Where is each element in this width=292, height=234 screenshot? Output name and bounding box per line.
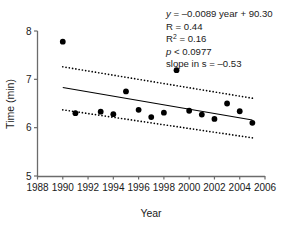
data-point bbox=[123, 89, 129, 95]
upper-confidence-band-dot bbox=[144, 79, 146, 81]
upper-confidence-band-dot bbox=[131, 77, 133, 79]
upper-confidence-band-dot bbox=[199, 89, 201, 91]
lower-confidence-band-dot bbox=[167, 124, 169, 126]
upper-confidence-band-dot bbox=[167, 83, 169, 85]
x-tick-label: 1996 bbox=[127, 182, 150, 193]
lower-confidence-band-dot bbox=[108, 116, 110, 118]
data-point bbox=[73, 110, 79, 116]
upper-confidence-band-dot bbox=[88, 70, 90, 72]
upper-confidence-band-dot bbox=[170, 84, 172, 86]
data-point bbox=[98, 109, 104, 115]
annotation-p-value: p < 0.0977 bbox=[165, 46, 212, 57]
scatter-chart: 5678 19881990199219941996199820002002200… bbox=[0, 0, 292, 234]
data-point bbox=[136, 107, 142, 113]
upper-confidence-band-dot bbox=[232, 94, 234, 96]
upper-confidence-band-dot bbox=[202, 89, 204, 91]
annotation-equation: y = –0.0089 year + 90.30 bbox=[165, 8, 273, 19]
upper-confidence-band-dot bbox=[104, 73, 106, 75]
upper-confidence-band-dot bbox=[163, 83, 165, 85]
lower-confidence-band-dot bbox=[91, 113, 93, 115]
lower-confidence-band-dot bbox=[189, 128, 191, 130]
upper-confidence-band-dot bbox=[248, 97, 250, 99]
upper-confidence-band-dot bbox=[242, 96, 244, 98]
upper-confidence-band-dot bbox=[91, 71, 93, 73]
lower-confidence-band-dot bbox=[85, 112, 87, 114]
lower-confidence-band-dot bbox=[131, 119, 133, 121]
upper-confidence-band-dot bbox=[212, 91, 214, 93]
upper-confidence-band-dot bbox=[75, 68, 77, 70]
lower-confidence-band-dot bbox=[222, 133, 224, 135]
lower-confidence-band-dot bbox=[127, 119, 129, 121]
upper-confidence-band-dot bbox=[157, 82, 159, 84]
lower-confidence-band-dot bbox=[157, 123, 159, 125]
upper-confidence-band-dot bbox=[160, 82, 162, 84]
upper-confidence-band-dot bbox=[229, 94, 231, 96]
annotation-r-squared: R2 = 0.16 bbox=[166, 33, 206, 45]
lower-confidence-band-dot bbox=[219, 132, 221, 134]
data-point bbox=[199, 112, 205, 118]
upper-confidence-band-dot bbox=[196, 88, 198, 90]
x-tick-label: 2004 bbox=[229, 182, 252, 193]
x-tick-label: 1990 bbox=[52, 182, 75, 193]
lower-confidence-band-dot bbox=[82, 112, 84, 114]
upper-confidence-band-dot bbox=[101, 72, 103, 74]
lower-confidence-band-dot bbox=[150, 122, 152, 124]
lower-confidence-band-dot bbox=[235, 135, 237, 137]
lower-confidence-band-dot bbox=[173, 125, 175, 127]
lower-confidence-band-dot bbox=[216, 132, 218, 134]
annotation-equation-rest: = –0.0089 year + 90.30 bbox=[171, 8, 273, 19]
upper-confidence-band-dot bbox=[124, 76, 126, 78]
upper-confidence-band-dot bbox=[65, 66, 67, 68]
lower-confidence-band-dot bbox=[176, 126, 178, 128]
lower-confidence-band-dot bbox=[78, 111, 80, 113]
lower-confidence-band-dot bbox=[140, 121, 142, 123]
y-tick-label: 6 bbox=[26, 122, 32, 133]
upper-confidence-band-dot bbox=[193, 88, 195, 90]
annotation-r-squared-base: R bbox=[166, 33, 173, 44]
upper-confidence-band-dot bbox=[216, 91, 218, 93]
upper-confidence-band-dot bbox=[219, 92, 221, 94]
annotation-p-rest: < 0.0977 bbox=[171, 46, 211, 57]
upper-confidence-band-dot bbox=[206, 90, 208, 92]
y-tick-label: 8 bbox=[26, 26, 32, 37]
upper-confidence-band-dot bbox=[82, 69, 84, 71]
lower-confidence-band-dot bbox=[124, 118, 126, 120]
upper-confidence-band-dot bbox=[186, 87, 188, 89]
lower-confidence-band-dot bbox=[199, 129, 201, 131]
lower-confidence-band-dot bbox=[160, 123, 162, 125]
lower-confidence-band-dot bbox=[117, 117, 119, 119]
lower-confidence-band-dot bbox=[147, 122, 149, 124]
upper-confidence-band-dot bbox=[235, 95, 237, 97]
data-point bbox=[110, 111, 116, 117]
annotation-slope: slope in s = –0.53 bbox=[166, 58, 241, 69]
chart-background bbox=[0, 0, 292, 234]
upper-confidence-band-dot bbox=[225, 93, 227, 95]
y-tick-label: 7 bbox=[26, 74, 32, 85]
upper-confidence-band-dot bbox=[117, 75, 119, 77]
lower-confidence-band-dot bbox=[163, 124, 165, 126]
lower-confidence-band-dot bbox=[144, 121, 146, 123]
upper-confidence-band-dot bbox=[85, 70, 87, 72]
upper-confidence-band-dot bbox=[72, 68, 74, 70]
lower-confidence-band-dot bbox=[134, 120, 136, 122]
data-point bbox=[212, 116, 218, 122]
upper-confidence-band-dot bbox=[209, 90, 211, 92]
data-point bbox=[237, 108, 243, 114]
x-tick-label: 2000 bbox=[178, 182, 201, 193]
annotation-r-squared-rest: = 0.16 bbox=[177, 33, 207, 44]
lower-confidence-band-dot bbox=[196, 129, 198, 131]
x-tick-label: 1994 bbox=[102, 182, 125, 193]
upper-confidence-band-dot bbox=[222, 92, 224, 94]
upper-confidence-band-dot bbox=[78, 69, 80, 71]
lower-confidence-band-dot bbox=[245, 136, 247, 138]
upper-confidence-band-dot bbox=[134, 78, 136, 80]
upper-confidence-band-dot bbox=[173, 84, 175, 86]
lower-confidence-band-dot bbox=[206, 130, 208, 132]
x-tick-label: 1988 bbox=[26, 182, 49, 193]
lower-confidence-band-dot bbox=[101, 115, 103, 117]
lower-confidence-band-dot bbox=[232, 134, 234, 136]
upper-confidence-band-dot bbox=[176, 85, 178, 87]
x-tick-label: 1998 bbox=[153, 182, 176, 193]
lower-confidence-band-dot bbox=[252, 137, 254, 139]
lower-confidence-band-dot bbox=[88, 113, 90, 115]
